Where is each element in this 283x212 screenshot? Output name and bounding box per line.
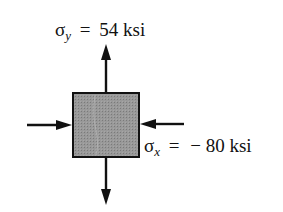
stress-element-square — [73, 93, 139, 157]
sigma-y-value: 54 ksi — [99, 19, 145, 40]
arrow-down-icon — [101, 158, 111, 205]
sigma-y-symbol: σ — [55, 19, 65, 40]
sigma-y-equals: = — [80, 19, 91, 40]
sigma-y-label: σy = 54 ksi — [55, 20, 145, 39]
sigma-y-subscript: y — [65, 28, 71, 43]
arrow-right-icon — [27, 120, 72, 130]
sigma-x-equals: = — [169, 135, 180, 156]
sigma-x-symbol: σ — [144, 135, 154, 156]
sigma-x-label: σx = − 80 ksi — [144, 136, 252, 155]
sigma-x-subscript: x — [154, 144, 160, 159]
arrow-up-icon — [101, 44, 111, 92]
sigma-x-value: − 80 ksi — [190, 135, 251, 156]
arrow-left-icon — [140, 119, 184, 129]
